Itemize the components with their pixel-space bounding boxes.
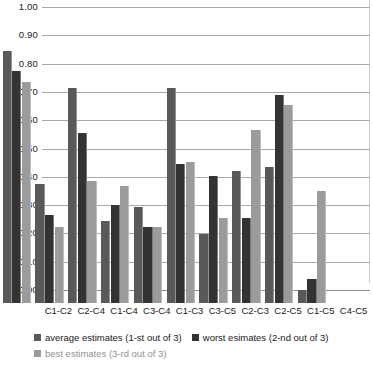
bar <box>219 218 228 303</box>
bar <box>186 162 195 304</box>
bar <box>134 207 143 303</box>
bar <box>275 95 284 303</box>
x-axis-tick-label: C2-C5 <box>272 305 305 317</box>
bar-group <box>197 20 230 303</box>
bar <box>167 88 176 303</box>
bar <box>101 221 110 303</box>
x-axis-tick-label: C4-C5 <box>337 305 370 317</box>
x-axis-tick-label: C1-C5 <box>304 305 337 317</box>
bar-group <box>131 20 164 303</box>
legend-swatch-icon <box>192 334 199 341</box>
bar-group <box>98 20 131 303</box>
legend-item-average[interactable]: average estimates (1-st out of 3) <box>34 332 182 343</box>
bar-group <box>262 20 295 303</box>
plot-right-edge <box>369 0 370 283</box>
bar <box>120 186 129 303</box>
x-axis-tick-label: C2-C3 <box>239 305 272 317</box>
bar <box>55 227 64 303</box>
bar-group <box>66 20 99 303</box>
x-axis-tick-label: C3-C5 <box>206 305 239 317</box>
x-axis-labels: C1-C2C2-C4C1-C4C3-C4C1-C3C3-C5C2-C3C2-C5… <box>42 305 370 321</box>
bar <box>265 167 274 303</box>
chart-legend: average estimates (1-st out of 3) worst … <box>34 332 364 364</box>
legend-item-label: best estimates (3-rd out of 3) <box>45 348 166 359</box>
x-axis-tick-label: C1-C3 <box>173 305 206 317</box>
bar <box>12 71 21 303</box>
x-axis-tick-label: C1-C2 <box>42 305 75 317</box>
bar <box>232 171 241 303</box>
legend-item-label: average estimates (1-st out of 3) <box>45 332 182 343</box>
bar <box>153 227 162 303</box>
bar <box>176 164 185 303</box>
bar-group <box>0 20 33 303</box>
bar <box>284 105 293 303</box>
x-axis-tick-label: C1-C4 <box>108 305 141 317</box>
bar-group <box>33 20 66 303</box>
bar-group <box>230 20 263 303</box>
bar <box>111 205 120 303</box>
bar <box>317 191 326 303</box>
bar <box>87 181 96 303</box>
bar <box>68 88 77 303</box>
plot-area: 0.000.100.200.300.400.500.600.700.800.90… <box>0 0 373 310</box>
legend-row-2: best estimates (3-rd out of 3) <box>34 348 364 359</box>
bar-group <box>295 20 328 303</box>
bar <box>3 51 12 303</box>
bar <box>209 176 218 303</box>
bar <box>22 82 31 303</box>
legend-row-1: average estimates (1-st out of 3) worst … <box>34 332 364 343</box>
bar <box>35 184 44 303</box>
legend-swatch-icon <box>34 350 41 357</box>
bar <box>251 130 260 303</box>
bar-group <box>164 20 197 303</box>
legend-swatch-icon <box>34 334 41 341</box>
bar <box>78 133 87 303</box>
bar <box>143 227 152 303</box>
x-axis-tick-label: C3-C4 <box>140 305 173 317</box>
legend-item-worst[interactable]: worst esimates (2-nd out of 3) <box>192 332 329 343</box>
legend-item-best[interactable]: best estimates (3-rd out of 3) <box>34 348 166 359</box>
bar <box>307 279 316 303</box>
x-axis-tick-label: C2-C4 <box>75 305 108 317</box>
bar <box>199 234 208 303</box>
bar-chart: 0.000.100.200.300.400.500.600.700.800.90… <box>0 0 373 381</box>
bar <box>298 290 307 303</box>
bar <box>242 218 251 303</box>
bar <box>45 215 54 303</box>
bars-layer <box>0 0 328 310</box>
legend-item-label: worst esimates (2-nd out of 3) <box>203 332 329 343</box>
